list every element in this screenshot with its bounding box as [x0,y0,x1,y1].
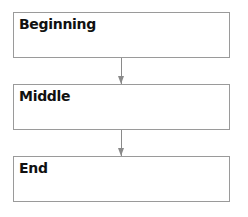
node-label: End [19,160,48,176]
flow-node-beginning: Beginning [13,12,230,58]
flow-node-middle: Middle [13,84,230,130]
node-label: Middle [19,88,70,104]
arrow-head-icon [118,76,124,84]
arrow-beginning-to-middle [121,58,122,84]
node-label: Beginning [19,16,96,32]
arrow-head-icon [118,148,124,156]
flow-node-end: End [13,156,230,202]
arrow-middle-to-end [121,130,122,156]
